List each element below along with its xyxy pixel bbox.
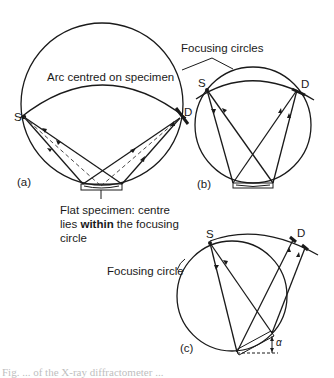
ray-b2: [207, 90, 273, 183]
ray-c1: [210, 243, 237, 352]
panel-label-a: (a): [17, 176, 31, 188]
ray-c3: [237, 240, 293, 352]
focusing-circle-a: [21, 23, 183, 185]
specimen-note-line1: Flat specimen: centre: [60, 204, 170, 216]
ray-c4: [272, 248, 305, 333]
arc-label: Arc centred on specimen: [47, 71, 174, 83]
detector-label-c: D: [297, 227, 305, 239]
focusing-circles-leader: [182, 58, 233, 70]
detector-label-a: D: [184, 106, 192, 118]
specimen-note-line2: lies within the focusing: [60, 218, 179, 230]
ray-c2: [210, 243, 272, 333]
panel-b: Focusing circles S D (b): [181, 42, 314, 190]
arc-centred-on-specimen: [20, 85, 186, 118]
focusing-circle-b: [195, 67, 311, 183]
angle-label-alpha: α: [276, 337, 282, 348]
dashed-ray-a1: [24, 117, 101, 186]
source-label-a: S: [14, 111, 22, 123]
panel-label-b: (b): [197, 178, 211, 190]
ray-b1: [207, 90, 233, 183]
detector-label-b: D: [301, 78, 309, 90]
specimen-note-line3: circle: [60, 232, 87, 244]
ray-a2: [24, 117, 122, 184]
focusing-circle-label: Focusing circle: [107, 265, 184, 277]
panel-a: S D Arc centred on specimen (a) Flat spe…: [14, 23, 192, 244]
panel-label-c: (c): [180, 342, 194, 354]
source-label-c: S: [206, 228, 214, 240]
source-label-b: S: [198, 77, 206, 89]
ray-b4: [273, 90, 297, 183]
panel-c: α Focusing circle S D (c): [107, 227, 318, 355]
focusing-circles-label: Focusing circles: [181, 42, 264, 54]
figure-caption-fragment: Fig. ... of the X-ray diffractometer ...: [2, 366, 163, 378]
ray-b3: [233, 90, 297, 183]
